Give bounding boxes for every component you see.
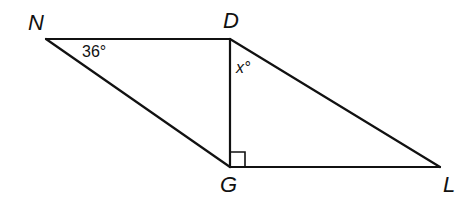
vertex-label-d: D [223,10,239,32]
vertex-label-g: G [220,174,237,196]
vertex-label-n: N [28,12,44,34]
segment-GN [46,39,230,167]
angle-label-n: 36° [82,44,106,60]
segment-DL [230,39,440,167]
vertex-label-l: L [443,174,455,196]
right-angle-marker [230,152,245,167]
angle-label-d: x° [236,60,250,76]
